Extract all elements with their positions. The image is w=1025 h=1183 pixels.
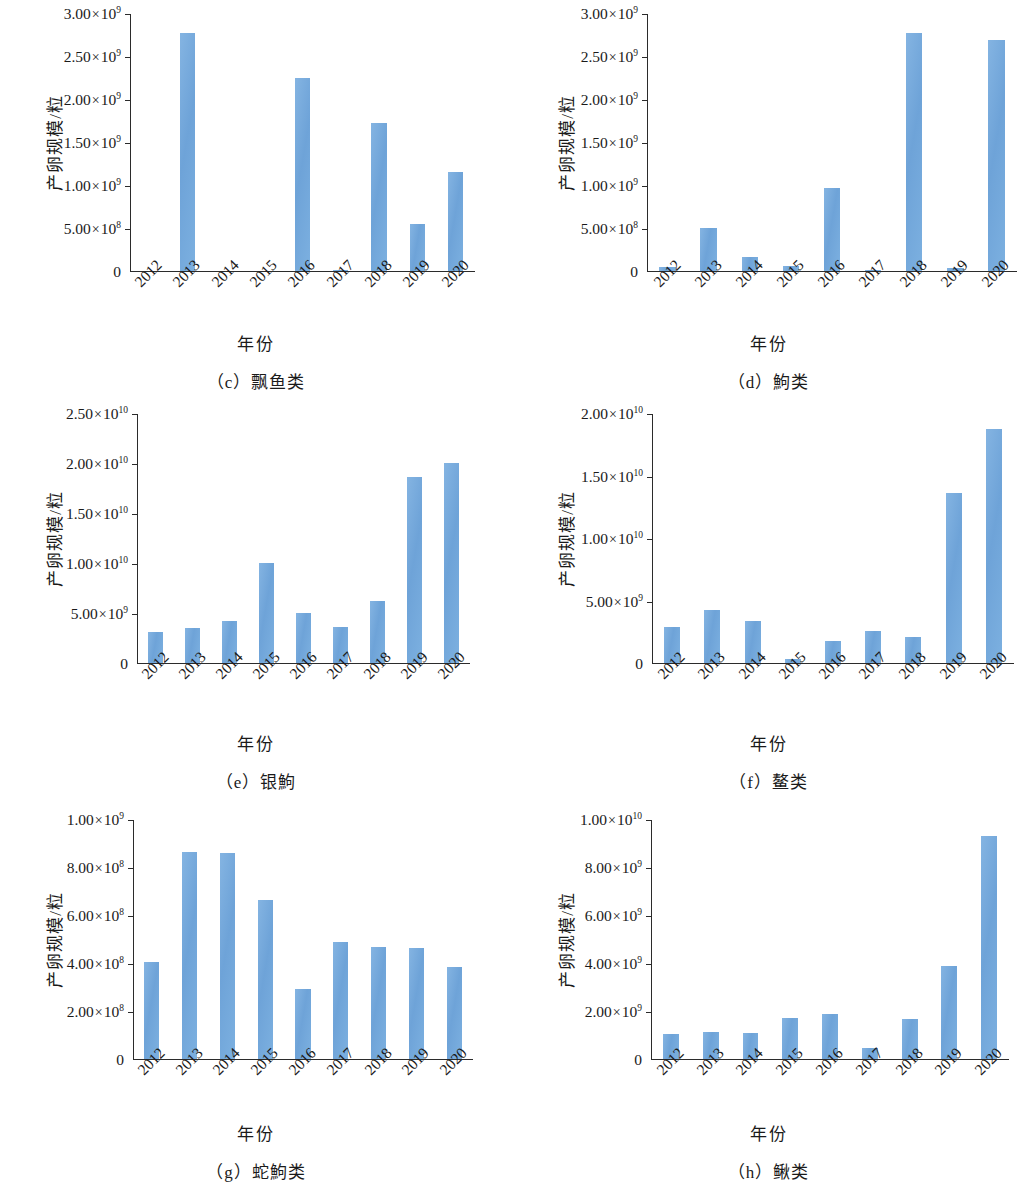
x-tick-slot: 2020	[974, 664, 1014, 734]
y-tick-label: 0	[120, 656, 128, 672]
bar-series	[133, 820, 473, 1059]
bar-slot	[246, 820, 284, 1059]
bar-slot	[168, 14, 206, 271]
y-tick-label: 1.50×1010	[581, 468, 643, 484]
bar-slot	[211, 414, 248, 663]
y-tick-label: 1.00×109	[67, 812, 124, 828]
x-tick-slot: 2012	[652, 664, 692, 734]
x-axis-title: 年份	[512, 330, 1025, 355]
bar-slot	[770, 14, 811, 271]
bar-slot	[652, 414, 692, 663]
bar-slot	[283, 14, 321, 271]
bar-slot	[137, 414, 174, 663]
bar-2015	[258, 900, 273, 1058]
chart-panel-h: 产卵规模/粒02.00×1094.00×1096.00×1098.00×1091…	[512, 800, 1025, 1170]
y-tick-label: 1.50×109	[581, 135, 638, 151]
bar-slot	[285, 414, 322, 663]
bar-slot	[850, 820, 890, 1059]
x-tick-slot: 2013	[174, 664, 211, 734]
bar-slot	[770, 820, 810, 1059]
plot-area-d: 05.00×1081.00×1091.50×1092.00×1092.50×10…	[647, 14, 1017, 272]
bar-2015	[259, 563, 274, 663]
bar-slot	[245, 14, 283, 271]
bar-2020	[444, 463, 459, 663]
bar-slot	[853, 414, 893, 663]
y-tick-label: 2.00×1010	[66, 456, 128, 472]
x-tick-slot: 2019	[396, 664, 433, 734]
x-tick-slot: 2018	[893, 664, 933, 734]
y-tick-label: 1.00×1010	[580, 812, 642, 828]
y-tick-label-group: 05.00×1081.00×1091.50×1092.00×1092.50×10…	[515, 14, 647, 272]
bar-slot	[248, 414, 285, 663]
bar-slot	[692, 414, 732, 663]
y-tick-label: 2.00×108	[67, 1004, 124, 1020]
panel-caption-c: （c）飘鱼类	[0, 368, 512, 393]
plot-area-e: 05.00×1091.00×10101.50×10102.00×10102.50…	[137, 414, 470, 664]
y-tick-label: 4.00×108	[67, 956, 124, 972]
bar-slot	[171, 820, 209, 1059]
bar-2018	[371, 123, 386, 271]
x-axis-title: 年份	[512, 1120, 1025, 1145]
y-tick-label: 1.00×1010	[581, 531, 643, 547]
y-tick-label-group: 05.00×1081.00×1091.50×1092.00×1092.50×10…	[0, 14, 130, 272]
bar-2019	[409, 948, 424, 1059]
x-tick-slot: 2013	[692, 664, 732, 734]
x-tick-slot: 2015	[248, 664, 285, 734]
bar-slot	[810, 820, 850, 1059]
bar-slot	[433, 414, 470, 663]
bar-2013	[182, 852, 197, 1059]
x-axis-title: 年份	[512, 730, 1025, 755]
y-tick-label-group: 05.00×1091.00×10101.50×10102.00×1010	[520, 414, 652, 664]
y-tick-label: 6.00×109	[585, 908, 642, 924]
panel-caption-f: （f）鳌类	[512, 768, 1025, 793]
bar-slot	[437, 14, 475, 271]
x-tick-slot: 2017	[322, 664, 359, 734]
bar-2014	[220, 853, 235, 1059]
bar-2020	[981, 836, 997, 1058]
plot-area-f: 05.00×1091.00×10101.50×10102.00×10102012…	[652, 414, 1014, 664]
bar-slot	[322, 820, 360, 1059]
y-tick-label: 5.00×109	[71, 606, 128, 622]
bar-slot	[813, 414, 853, 663]
y-tick-label: 0	[634, 1052, 642, 1068]
panel-caption-e: （e）银鮈	[0, 768, 512, 793]
x-tick-label-group: 201220132014201520162017201820192020	[137, 664, 470, 734]
y-tick-label-group: 05.00×1091.00×10101.50×10102.00×10102.50…	[5, 414, 137, 664]
bar-series	[652, 414, 1014, 663]
y-tick-label-group: 02.00×1094.00×1096.00×1098.00×1091.00×10…	[519, 820, 651, 1060]
bar-series	[137, 414, 470, 663]
x-tick-slot: 2016	[813, 664, 853, 734]
bar-slot	[133, 820, 171, 1059]
bar-slot	[732, 414, 772, 663]
x-axis-title: 年份	[0, 330, 512, 355]
y-tick-label: 2.00×1010	[581, 406, 643, 422]
bar-slot	[396, 414, 433, 663]
y-tick-label: 2.50×109	[581, 49, 638, 65]
bar-slot	[359, 414, 396, 663]
bar-slot	[207, 14, 245, 271]
bar-slot	[729, 14, 770, 271]
panel-caption-g: （g）蛇鮈类	[0, 1158, 512, 1183]
y-tick-label: 2.00×109	[581, 92, 638, 108]
y-tick-label: 5.00×109	[586, 593, 643, 609]
bar-slot	[969, 820, 1009, 1059]
x-axis-title: 年份	[0, 730, 512, 755]
chart-panel-g: 产卵规模/粒02.00×1084.00×1086.00×1088.00×1081…	[0, 800, 512, 1170]
y-tick-label: 8.00×108	[67, 860, 124, 876]
bar-slot	[811, 14, 852, 271]
plot-area-g: 02.00×1084.00×1086.00×1088.00×1081.00×10…	[133, 820, 473, 1060]
bar-slot	[360, 14, 398, 271]
x-tick-slot: 2019	[934, 664, 974, 734]
bar-slot	[773, 414, 813, 663]
bar-2018	[906, 33, 922, 270]
bar-slot	[890, 820, 930, 1059]
bar-slot	[691, 820, 731, 1059]
bar-2020	[448, 172, 463, 271]
bar-series	[651, 820, 1009, 1059]
y-tick-label: 1.00×1010	[66, 556, 128, 572]
bar-2020	[986, 429, 1002, 663]
x-tick-slot: 2020	[433, 664, 470, 734]
y-tick-label: 1.00×109	[581, 178, 638, 194]
chart-panel-d: 产卵规模/粒05.00×1081.00×1091.50×1092.00×1092…	[512, 0, 1025, 400]
bar-slot	[976, 14, 1017, 271]
